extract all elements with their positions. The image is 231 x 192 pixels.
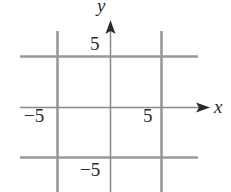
graph-canvas (0, 0, 231, 192)
y-axis-label: y (97, 0, 105, 15)
coordinate-grid-figure: y x 5 −5 5 −5 (0, 0, 231, 192)
gridlines (20, 31, 198, 192)
axis-arrowheads (106, 20, 211, 113)
y-axis-tick-label-negative-5: −5 (80, 160, 100, 179)
x-axis-tick-label-negative-5: −5 (24, 106, 44, 125)
x-axis-tick-label-positive-5: 5 (143, 106, 153, 125)
axes (20, 28, 203, 192)
x-axis-label: x (214, 97, 222, 116)
y-axis-tick-label-positive-5: 5 (90, 34, 100, 53)
